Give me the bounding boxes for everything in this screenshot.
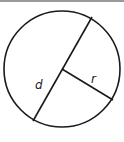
radius-line (62, 69, 113, 100)
diameter-label: d (35, 78, 43, 92)
circle-diagram: d r (0, 0, 124, 142)
radius-label: r (91, 72, 97, 86)
